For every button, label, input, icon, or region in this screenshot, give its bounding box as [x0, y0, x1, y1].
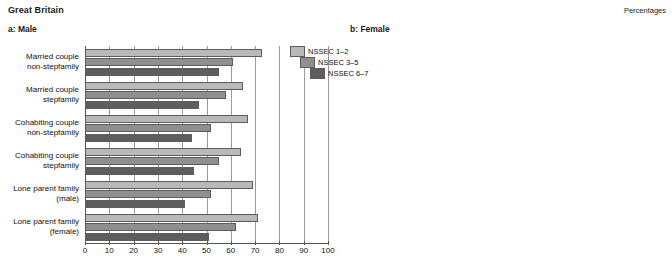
bar: [85, 167, 194, 175]
category-label-line: stepfamily: [26, 95, 79, 105]
bar: [85, 101, 199, 109]
tick-label-male-30: 30: [153, 246, 162, 255]
tick-male-30: [158, 241, 159, 245]
x-axis-tick-labels-male: 0102030405060708090100: [85, 246, 328, 260]
category-label: Married couplestepfamily: [26, 85, 79, 104]
bar: [85, 214, 258, 222]
tick-male-100: [328, 241, 329, 245]
tick-label-male-10: 10: [105, 246, 114, 255]
tick-label-male-70: 70: [251, 246, 260, 255]
category-label: Cohabiting couplestepfamily: [15, 151, 79, 170]
tick-label-male-0: 0: [83, 246, 87, 255]
tick-male-90: [304, 241, 305, 245]
bar: [85, 200, 185, 208]
category-label: Lone parent family(female): [13, 217, 79, 236]
category-labels-male: Married couplenon-stepfamilyMarried coup…: [0, 46, 82, 244]
category-label-line: stepfamily: [15, 161, 79, 171]
bar: [85, 124, 211, 132]
tick-label-male-40: 40: [178, 246, 187, 255]
category-label-line: (female): [13, 227, 79, 237]
x-axis-ticks-male: [85, 241, 328, 245]
tick-label-male-100: 100: [321, 246, 334, 255]
bar: [85, 91, 226, 99]
bar: [85, 82, 243, 90]
category-label-line: Lone parent family: [13, 184, 79, 194]
bar: [85, 49, 262, 57]
tick-male-50: [207, 241, 208, 245]
category-label-line: non-stepfamily: [26, 62, 79, 72]
category-label-line: Married couple: [26, 52, 79, 62]
bar: [85, 190, 211, 198]
bar-group: [85, 115, 328, 142]
bar: [85, 233, 209, 241]
tick-male-80: [279, 241, 280, 245]
category-label-line: Cohabiting couple: [15, 118, 79, 128]
tick-male-60: [231, 241, 232, 245]
bar: [85, 68, 219, 76]
bar: [85, 157, 219, 165]
bar: [85, 148, 241, 156]
tick-male-10: [109, 241, 110, 245]
tick-male-0: [85, 241, 86, 245]
chart-panel-female: Married couplenon-stepfamilyMarried coup…: [336, 40, 672, 269]
tick-male-70: [255, 241, 256, 245]
category-label: Lone parent family(male): [13, 184, 79, 203]
tick-label-male-80: 80: [275, 246, 284, 255]
tick-label-male-60: 60: [226, 246, 235, 255]
category-label-line: non-stepfamily: [15, 128, 79, 138]
bar-group: [85, 214, 328, 241]
region-title: Great Britain: [8, 5, 64, 15]
legend-swatch: [300, 57, 315, 68]
panel-b-title: b: Female: [350, 24, 390, 34]
units-label: Percentages: [624, 6, 666, 15]
legend-swatch: [290, 46, 305, 57]
tick-label-male-20: 20: [129, 246, 138, 255]
tick-label-male-90: 90: [299, 246, 308, 255]
bar-group: [85, 181, 328, 208]
category-label: Cohabiting couplenon-stepfamily: [15, 118, 79, 137]
category-label-line: (male): [13, 194, 79, 204]
bar: [85, 134, 192, 142]
bar: [85, 58, 233, 66]
category-label-line: Married couple: [26, 85, 79, 95]
category-label-line: Cohabiting couple: [15, 151, 79, 161]
tick-male-20: [134, 241, 135, 245]
bar: [85, 115, 248, 123]
panel-a-title: a: Male: [8, 24, 37, 34]
bar: [85, 181, 253, 189]
tick-male-40: [182, 241, 183, 245]
chart-header: Great Britain Percentages a: Male b: Fem…: [0, 0, 672, 40]
chart-panel-male: Married couplenon-stepfamilyMarried coup…: [0, 40, 336, 269]
bar: [85, 223, 236, 231]
bar-group: [85, 148, 328, 175]
category-label-line: Lone parent family: [13, 217, 79, 227]
category-label: Married couplenon-stepfamily: [26, 52, 79, 71]
tick-label-male-50: 50: [202, 246, 211, 255]
legend-swatch: [310, 68, 325, 79]
